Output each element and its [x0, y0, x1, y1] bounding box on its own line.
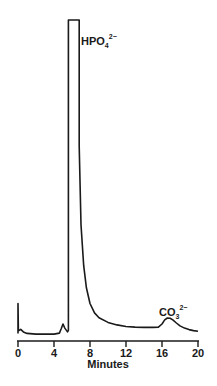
x-tick-label: 16 — [156, 347, 168, 359]
x-tick-label: 0 — [15, 347, 21, 359]
annotation-co3: CO32− — [159, 304, 187, 320]
x-axis-ticks: 048121620 — [15, 341, 204, 359]
x-tick-label: 20 — [192, 347, 204, 359]
chromatogram-trace — [18, 20, 198, 334]
x-axis-label: Minutes — [87, 358, 129, 370]
chromatogram-chart: 048121620 Minutes HPO42− CO32− — [0, 0, 217, 386]
x-tick-label: 4 — [51, 347, 58, 359]
annotation-hpo4: HPO42− — [81, 33, 117, 49]
